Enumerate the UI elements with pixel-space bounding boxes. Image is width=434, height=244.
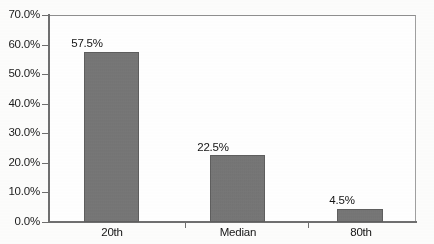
- bar-chart: 70.0% 60.0% 50.0% 40.0% 30.0% 20.0% 10.0…: [0, 0, 434, 244]
- x-axis-label-median: Median: [207, 226, 269, 238]
- x-axis-label-20th: 20th: [82, 226, 142, 238]
- y-axis-label: 40.0%: [0, 97, 40, 109]
- bar-median[interactable]: [210, 155, 265, 222]
- y-axis-label: 70.0%: [0, 8, 40, 20]
- bar-value-label-20th: 57.5%: [56, 37, 118, 49]
- y-axis-label: 50.0%: [0, 67, 40, 79]
- bar-20th[interactable]: [84, 52, 139, 222]
- y-axis-label: 10.0%: [0, 185, 40, 197]
- y-axis-label: 60.0%: [0, 38, 40, 50]
- x-axis-separator-tick: [308, 222, 309, 228]
- y-axis-label: 0.0%: [0, 215, 40, 227]
- x-axis-separator-tick: [185, 222, 186, 228]
- bar-value-label-median: 22.5%: [182, 141, 244, 153]
- y-axis-label: 20.0%: [0, 156, 40, 168]
- y-axis-label: 30.0%: [0, 126, 40, 138]
- bar-80th[interactable]: [337, 209, 383, 222]
- bar-value-label-80th: 4.5%: [314, 194, 370, 206]
- x-axis-label-80th: 80th: [331, 226, 391, 238]
